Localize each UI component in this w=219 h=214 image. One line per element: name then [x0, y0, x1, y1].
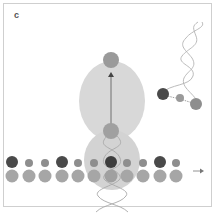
right-arrow-icon [193, 169, 204, 174]
diagram-canvas [0, 0, 219, 214]
top-circle [103, 52, 119, 68]
membrane-bottom-row [6, 170, 183, 183]
middle-circle [103, 123, 119, 139]
molecule-chain [157, 88, 202, 110]
